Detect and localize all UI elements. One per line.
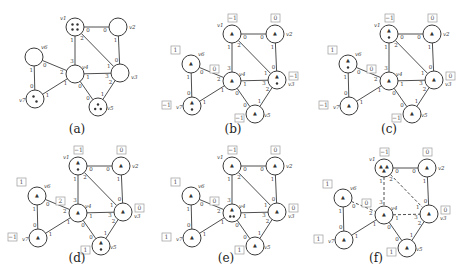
panel-d: 00132110130210110021▲v1−1▲v20▲v30▲v42▲v5…: [8, 146, 144, 255]
agent-icon: ▲: [189, 60, 193, 66]
vertex-label: v4: [239, 203, 246, 209]
agent-icon: ▲: [189, 192, 193, 198]
vertex-label: v7: [176, 236, 183, 242]
agent-icon: ▲: [275, 208, 279, 214]
vertex-label: v1: [369, 156, 376, 162]
port-label: 1: [400, 81, 404, 87]
edge-v2-v3: [275, 175, 276, 203]
vertex-label: v6: [350, 185, 357, 191]
vertex-v5: ▲v51: [81, 237, 117, 255]
port-label: 1: [360, 99, 364, 105]
port-label: 1: [187, 74, 191, 80]
vertex-v2: v2: [109, 18, 136, 36]
port-label: 3: [227, 197, 231, 203]
value-box-text: 0: [426, 148, 430, 155]
vertex-v3: ▲v30: [114, 203, 144, 221]
port-label: 0: [344, 90, 348, 96]
vertex-label: v4: [85, 203, 92, 209]
edge-v1-v3: [84, 172, 116, 205]
port-label: 1: [30, 67, 34, 73]
port-label: 1: [373, 221, 377, 227]
vertex-v3: ▲v30: [268, 203, 298, 221]
port-label: 0: [46, 201, 50, 207]
token-dot: [32, 95, 34, 97]
port-label: 0: [352, 203, 356, 209]
port-label: 0: [103, 27, 107, 33]
agent-icon: ▲: [35, 192, 39, 198]
edge-v1-v3: [238, 40, 270, 73]
vertex-label: v7: [19, 97, 26, 103]
port-label: 0: [357, 69, 361, 75]
port-label: 1: [64, 80, 68, 86]
value-box-text: 0: [449, 72, 453, 79]
port-label: 0: [115, 57, 119, 63]
port-label: 1: [378, 87, 382, 93]
vertex-circle: [26, 90, 44, 108]
value-box-text: −1: [228, 14, 237, 21]
vertex-circle: [89, 98, 107, 116]
port-label: 2: [266, 218, 270, 224]
vertex-v7: ▲v7−1: [319, 97, 358, 115]
agent-icon: ▲: [405, 244, 409, 250]
panel-c: 00132110130210110021▲v1−1▲v20▲v30▲v40▲v5…: [319, 14, 455, 123]
port-label: 0: [395, 168, 399, 174]
vertex-v3: v3: [111, 64, 138, 82]
port-label: 1: [101, 91, 105, 97]
panel-caption-e: (e): [218, 251, 234, 265]
agent-icon: ▲: [427, 210, 431, 216]
vertex-label: v2: [286, 163, 293, 169]
port-label: 3: [70, 58, 74, 64]
agent-icon: ▲: [273, 162, 277, 168]
value-box-text: 0: [444, 206, 448, 213]
edge-v6-v7: [191, 205, 192, 229]
port-label: 0: [412, 168, 416, 174]
vertex-label: v7: [176, 104, 183, 110]
port-label: 1: [339, 208, 343, 214]
edge-v2-v3: [275, 43, 276, 71]
port-label: 0: [243, 34, 247, 40]
vertex-v1: ▲v1−1: [217, 14, 241, 43]
port-label: 0: [260, 34, 264, 40]
port-label: 0: [417, 34, 421, 40]
port-label: 1: [46, 92, 50, 98]
panel-caption-b: (b): [224, 122, 241, 136]
port-label: 1: [227, 176, 231, 182]
port-label: 0: [387, 224, 391, 230]
vertex-label: v3: [134, 213, 141, 219]
port-label: 2: [266, 86, 270, 92]
value-box-text: 0: [213, 65, 217, 72]
edge-v6-v7: [343, 207, 344, 231]
vertex-v2: ▲v20: [423, 14, 450, 43]
token-dot: [77, 168, 79, 170]
port-label: 0: [89, 166, 93, 172]
port-label: 0: [260, 166, 264, 172]
token-dot: [35, 100, 37, 102]
port-label: 1: [264, 202, 268, 208]
vertex-v3: ▲v30: [425, 71, 455, 89]
agent-icon: ▲: [410, 110, 414, 116]
port-label: 3: [384, 65, 388, 71]
agent-icon: ▲: [387, 77, 391, 83]
vertex-label: v5: [416, 246, 423, 252]
vertex-v1: ▲▲▲v1−1: [369, 148, 393, 177]
token-dot: [347, 66, 349, 68]
port-label: 1: [114, 37, 118, 43]
vertex-label: v6: [44, 183, 51, 189]
vertex-label: v2: [286, 31, 293, 37]
port-label: 2: [112, 218, 116, 224]
token-dot: [94, 108, 96, 110]
vertex-label: v5: [107, 105, 114, 111]
vertex-label: v5: [264, 112, 271, 118]
edge-v2-v3: [118, 36, 119, 64]
port-label: 2: [83, 174, 87, 180]
port-label: 0: [339, 224, 343, 230]
vertex-label: v1: [63, 154, 70, 160]
port-label: 1: [421, 70, 425, 76]
vertex-v5: ▲v5−1: [392, 105, 428, 123]
edge-v1-v3: [81, 33, 113, 66]
port-label: 0: [118, 196, 122, 202]
value-box-text: 0: [370, 65, 374, 72]
edge-v2-v3: [121, 175, 122, 203]
token-dot: [229, 215, 231, 217]
agent-icon: ▲: [253, 242, 257, 248]
